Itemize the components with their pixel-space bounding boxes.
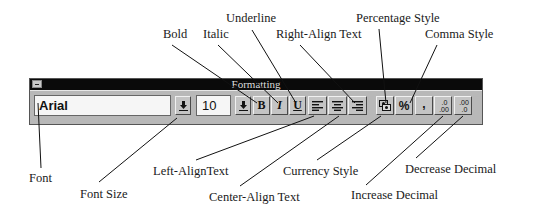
increase-decimal-bottom: .00 xyxy=(437,106,449,113)
decrease-decimal-top: .00 xyxy=(457,99,469,106)
comma-style-button[interactable]: , xyxy=(415,96,433,115)
percent-style-button[interactable]: % xyxy=(395,96,413,115)
callout-right-align: Right-Align Text xyxy=(276,27,361,42)
italic-button[interactable]: I xyxy=(271,96,288,115)
title-bar[interactable]: Formatting xyxy=(30,79,482,90)
callout-increase-decimal: Increase Decimal xyxy=(351,188,438,203)
currency-style-button[interactable] xyxy=(376,96,394,115)
align-right-button[interactable] xyxy=(348,96,367,115)
callout-percentage: Percentage Style xyxy=(356,11,440,26)
increase-decimal-button[interactable]: .0 .00 xyxy=(434,96,452,115)
increase-decimal-top: .0 xyxy=(439,99,448,106)
bold-button[interactable]: B xyxy=(253,96,270,115)
callout-left-align: Left-AlignText xyxy=(153,164,229,179)
underline-button[interactable]: U xyxy=(289,96,306,115)
font-size-dropdown-button[interactable] xyxy=(235,96,251,115)
font-name-input[interactable]: Arial xyxy=(34,95,171,116)
align-center-icon xyxy=(332,101,343,111)
font-dropdown-button[interactable] xyxy=(175,96,191,115)
callout-bold: Bold xyxy=(163,27,187,42)
decrease-decimal-button[interactable]: .00 .0 xyxy=(454,96,472,115)
callout-comma: Comma Style xyxy=(425,27,493,42)
decrease-decimal-bottom: .0 xyxy=(459,106,468,113)
toolbar-body: Arial 10 B I U % , .0 .00 xyxy=(30,90,482,124)
callout-font-size: Font Size xyxy=(80,187,128,202)
align-center-button[interactable] xyxy=(328,96,347,115)
dropdown-arrow-icon xyxy=(179,101,188,111)
align-left-button[interactable] xyxy=(308,96,327,115)
align-left-icon xyxy=(312,101,323,111)
formatting-toolbar: Formatting Arial 10 B I U % , xyxy=(29,78,483,125)
callout-font: Font xyxy=(29,171,52,186)
align-right-icon xyxy=(352,101,363,111)
currency-icon xyxy=(379,100,391,111)
font-size-input[interactable]: 10 xyxy=(196,95,231,116)
callout-center-align: Center-Align Text xyxy=(209,190,300,205)
callout-underline: Underline xyxy=(226,11,276,26)
callout-currency: Currency Style xyxy=(283,164,358,179)
callout-italic: Italic xyxy=(203,27,229,42)
toolbar-title: Formatting xyxy=(30,78,482,90)
dropdown-arrow-icon xyxy=(239,101,248,111)
callout-decrease-decimal: Decrease Decimal xyxy=(405,162,496,177)
